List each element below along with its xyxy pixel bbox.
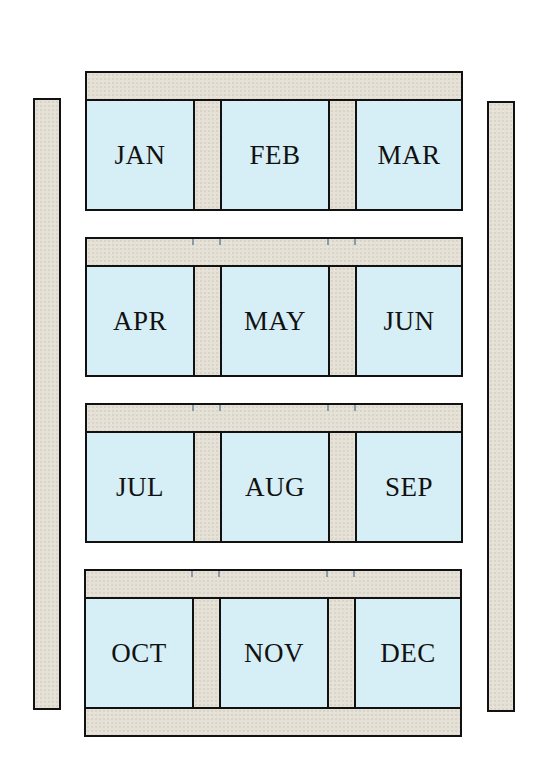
row-1-divider-2 bbox=[328, 99, 357, 211]
month-label: APR bbox=[113, 308, 167, 335]
month-label: MAY bbox=[244, 308, 306, 335]
month-label: SEP bbox=[385, 474, 433, 501]
month-label: MAR bbox=[377, 142, 440, 169]
month-label: JUL bbox=[116, 474, 164, 501]
month-cell-jan: JAN bbox=[85, 99, 195, 211]
tick-mark bbox=[327, 405, 329, 411]
month-cell-sep: SEP bbox=[355, 431, 463, 543]
bottom-bar bbox=[84, 707, 462, 737]
row-2-top-bar bbox=[85, 237, 463, 267]
month-cell-nov: NOV bbox=[219, 597, 329, 709]
row-1-top-bar bbox=[85, 71, 463, 101]
month-cell-jul: JUL bbox=[85, 431, 195, 543]
month-label: FEB bbox=[249, 142, 300, 169]
month-cell-dec: DEC bbox=[354, 597, 462, 709]
month-cell-oct: OCT bbox=[84, 597, 194, 709]
tick-mark bbox=[326, 571, 328, 577]
row-4-divider-2 bbox=[327, 597, 356, 709]
month-cell-apr: APR bbox=[85, 265, 195, 377]
month-cell-aug: AUG bbox=[220, 431, 330, 543]
month-label: NOV bbox=[244, 640, 304, 667]
row-3-top-bar bbox=[85, 403, 463, 433]
row-2-divider-1 bbox=[193, 265, 222, 377]
tick-mark bbox=[218, 571, 220, 577]
tick-mark bbox=[354, 239, 356, 245]
month-label: OCT bbox=[111, 640, 167, 667]
month-cell-jun: JUN bbox=[355, 265, 463, 377]
row-3-divider-2 bbox=[328, 431, 357, 543]
tick-mark bbox=[219, 405, 221, 411]
row-1-divider-1 bbox=[193, 99, 222, 211]
tick-mark bbox=[192, 239, 194, 245]
month-label: AUG bbox=[245, 474, 305, 501]
month-cell-feb: FEB bbox=[220, 99, 330, 211]
tick-mark bbox=[191, 571, 193, 577]
tick-mark bbox=[354, 405, 356, 411]
row-4-divider-1 bbox=[192, 597, 221, 709]
tick-mark bbox=[353, 571, 355, 577]
month-label: DEC bbox=[380, 640, 436, 667]
tick-mark bbox=[192, 405, 194, 411]
month-cell-may: MAY bbox=[220, 265, 330, 377]
row-3-divider-1 bbox=[193, 431, 222, 543]
row-4-top-bar bbox=[84, 569, 462, 599]
month-cell-mar: MAR bbox=[355, 99, 463, 211]
row-2-divider-2 bbox=[328, 265, 357, 377]
right-post bbox=[487, 101, 515, 712]
month-label: JUN bbox=[383, 308, 434, 335]
month-label: JAN bbox=[114, 142, 165, 169]
left-post bbox=[33, 98, 61, 710]
tick-mark bbox=[327, 239, 329, 245]
tick-mark bbox=[219, 239, 221, 245]
